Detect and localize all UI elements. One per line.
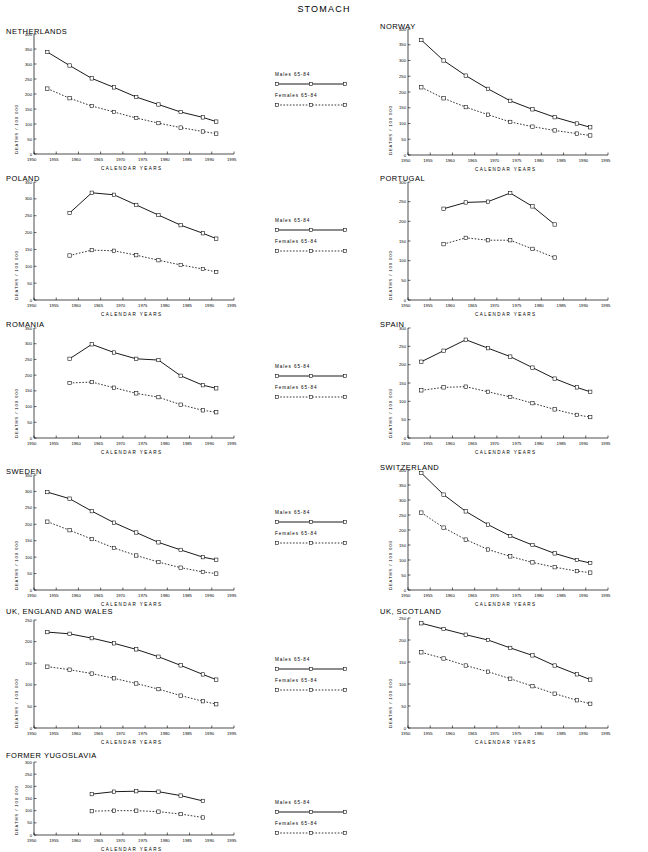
y-tick-label: 50 xyxy=(395,137,406,142)
plot-area xyxy=(408,618,616,736)
plot-area xyxy=(408,29,616,163)
legend-males: Males 65-84 xyxy=(275,510,310,515)
y-tick-label: 250 xyxy=(21,505,32,510)
y-tick-label: 300 xyxy=(395,498,406,503)
x-axis-label: CALENDAR YEARS xyxy=(101,740,162,745)
legend-label: Females 65-84 xyxy=(275,93,317,98)
y-tick-label: 50 xyxy=(395,417,406,422)
y-tick-label: 150 xyxy=(21,388,32,393)
y-axis-label: DEATHS / 100 000 xyxy=(388,105,393,155)
y-tick-label: 250 xyxy=(395,199,406,204)
y-axis-label: DEATHS / 100 000 xyxy=(388,250,393,300)
plot-area xyxy=(34,34,242,162)
plot-area xyxy=(34,762,242,843)
y-tick-label: 50 xyxy=(21,420,32,425)
plot-area xyxy=(34,182,242,308)
y-tick-label: 150 xyxy=(395,660,406,665)
y-tick-label: 300 xyxy=(21,196,32,201)
legend-males: Males 65-84 xyxy=(275,72,310,77)
y-tick-label: 100 xyxy=(21,264,32,269)
y-tick-label: 400 xyxy=(395,468,406,473)
y-tick-label: 350 xyxy=(21,180,32,185)
y-tick-label: 150 xyxy=(395,105,406,110)
plot-area xyxy=(34,328,242,446)
y-axis-label: DEATHS / 100 000 xyxy=(388,540,393,590)
legend-males: Males 65-84 xyxy=(275,218,310,223)
y-tick-label: 300 xyxy=(21,489,32,494)
legend-males: Males 65-84 xyxy=(275,364,310,369)
legend-females: Females 65-84 xyxy=(275,531,317,536)
x-axis-label: CALENDAR YEARS xyxy=(475,312,536,317)
legend-females: Females 65-84 xyxy=(275,821,317,826)
y-tick-label: 0 xyxy=(21,726,32,731)
page-title: STOMACH xyxy=(0,4,648,14)
legend-label: Females 65-84 xyxy=(275,531,317,536)
y-tick-label: 300 xyxy=(395,58,406,63)
plot-area xyxy=(34,475,242,598)
y-axis-label: DEATHS / 100 000 xyxy=(388,388,393,438)
y-tick-label: 300 xyxy=(21,62,32,67)
y-tick-label: 350 xyxy=(21,326,32,331)
y-tick-label: 200 xyxy=(395,638,406,643)
legend-males: Males 65-84 xyxy=(275,800,310,805)
legend-sample-males xyxy=(275,808,347,816)
y-tick-label: 0 xyxy=(395,153,406,158)
legend-sample-males xyxy=(275,665,347,673)
legend-sample-females xyxy=(275,829,347,837)
y-tick-label: 200 xyxy=(21,92,32,97)
y-tick-label: 200 xyxy=(395,362,406,367)
y-tick-label: 250 xyxy=(21,772,32,777)
legend-label: Females 65-84 xyxy=(275,239,317,244)
y-tick-label: 100 xyxy=(395,682,406,687)
y-tick-label: 150 xyxy=(395,239,406,244)
y-tick-label: 0 xyxy=(395,298,406,303)
y-tick-label: 100 xyxy=(21,122,32,127)
plot-area xyxy=(34,620,242,736)
y-tick-label: 0 xyxy=(395,726,406,731)
y-tick-label: 350 xyxy=(21,473,32,478)
y-tick-label: 250 xyxy=(21,213,32,218)
legend-label: Males 65-84 xyxy=(275,72,310,77)
x-axis-label: CALENDAR YEARS xyxy=(475,167,536,172)
legend-females: Females 65-84 xyxy=(275,385,317,390)
y-axis-label: DEATHS / 100 000 xyxy=(14,540,19,590)
y-tick-label: 100 xyxy=(21,404,32,409)
panel-title: UK, ENGLAND AND WALES xyxy=(6,607,113,616)
y-tick-label: 0 xyxy=(21,436,32,441)
y-axis-label: DEATHS / 100 000 xyxy=(14,785,19,835)
legend-label: Males 65-84 xyxy=(275,510,310,515)
y-tick-label: 50 xyxy=(21,704,32,709)
y-tick-label: 200 xyxy=(21,522,32,527)
y-tick-label: 50 xyxy=(395,278,406,283)
legend-label: Males 65-84 xyxy=(275,657,310,662)
y-tick-label: 350 xyxy=(21,47,32,52)
y-tick-label: 200 xyxy=(395,90,406,95)
y-tick-label: 50 xyxy=(21,281,32,286)
y-tick-label: 300 xyxy=(21,760,32,765)
y-tick-label: 250 xyxy=(21,357,32,362)
legend-sample-females xyxy=(275,393,347,401)
y-tick-label: 350 xyxy=(395,483,406,488)
legend-sample-females xyxy=(275,539,347,547)
legend-sample-females xyxy=(275,686,347,694)
panel-title: FORMER YUGOSLAVIA xyxy=(6,751,97,760)
y-tick-label: 200 xyxy=(21,230,32,235)
x-axis-label: CALENDAR YEARS xyxy=(101,312,162,317)
legend-sample-males xyxy=(275,518,347,526)
y-tick-label: 250 xyxy=(21,77,32,82)
panel-title: UK, SCOTLAND xyxy=(380,607,441,616)
x-axis-label: CALENDAR YEARS xyxy=(475,740,536,745)
y-tick-label: 300 xyxy=(395,180,406,185)
y-tick-label: 150 xyxy=(395,543,406,548)
legend-females: Females 65-84 xyxy=(275,93,317,98)
legend-label: Females 65-84 xyxy=(275,678,317,683)
y-tick-label: 200 xyxy=(21,373,32,378)
y-tick-label: 200 xyxy=(395,528,406,533)
y-tick-label: 100 xyxy=(21,555,32,560)
y-tick-label: 150 xyxy=(395,381,406,386)
y-tick-label: 100 xyxy=(395,399,406,404)
y-tick-label: 250 xyxy=(21,618,32,623)
y-tick-label: 100 xyxy=(395,121,406,126)
y-tick-label: 250 xyxy=(395,616,406,621)
y-tick-label: 200 xyxy=(21,639,32,644)
